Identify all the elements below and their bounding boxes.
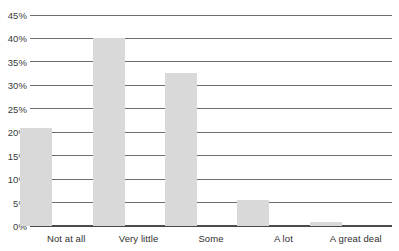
x-tick-label: Some bbox=[198, 233, 223, 244]
bar bbox=[310, 222, 342, 226]
bar bbox=[93, 38, 125, 226]
bars-group bbox=[0, 0, 362, 251]
bar bbox=[237, 200, 269, 226]
x-axis: Not at allVery littleSomeA lotA great de… bbox=[30, 233, 392, 251]
bar-chart: 0%5%10%15%20%25%30%35%40%45% Not at allV… bbox=[0, 0, 399, 251]
x-tick-label: A lot bbox=[274, 233, 293, 244]
bar bbox=[20, 128, 52, 226]
x-tick-label: A great deal bbox=[330, 233, 382, 244]
x-tick-label: Not at all bbox=[47, 233, 86, 244]
bar bbox=[165, 73, 197, 226]
x-tick-label: Very little bbox=[119, 233, 159, 244]
